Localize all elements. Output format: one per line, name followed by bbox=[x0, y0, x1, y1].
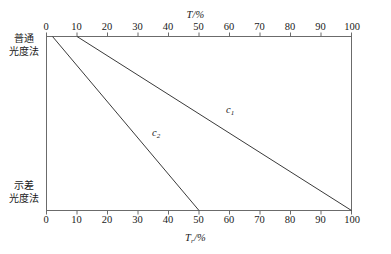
series-label-c1: c1 bbox=[226, 104, 234, 117]
bottom-tick-50: 50 bbox=[184, 214, 214, 225]
series-label-c2: c2 bbox=[152, 127, 160, 140]
plot-frame bbox=[47, 37, 352, 211]
transfer-line-c1 bbox=[77, 37, 352, 211]
bottom-tick-0: 0 bbox=[31, 214, 61, 225]
series-label-c1-subscript: 1 bbox=[231, 109, 235, 117]
bottom-axis-title-units: /% bbox=[194, 232, 206, 243]
bottom-tick-60: 60 bbox=[214, 214, 244, 225]
bottom-tick-40: 40 bbox=[153, 214, 183, 225]
bottom-tick-80: 80 bbox=[275, 214, 305, 225]
bottom-axis-title: Tr/% bbox=[0, 232, 391, 245]
bottom-tick-30: 30 bbox=[123, 214, 153, 225]
top-axis-ticks bbox=[47, 33, 352, 37]
bottom-tick-10: 10 bbox=[62, 214, 92, 225]
bottom-tick-20: 20 bbox=[92, 214, 122, 225]
bottom-tick-90: 90 bbox=[306, 214, 336, 225]
photometry-nomogram-figure: T/% 0 10 20 30 40 50 60 70 80 90 100 普通 … bbox=[0, 0, 391, 254]
series-label-c2-subscript: 2 bbox=[157, 132, 161, 140]
bottom-axis-tick-labels: 0 10 20 30 40 50 60 70 80 90 100 bbox=[0, 214, 391, 228]
bottom-tick-100: 100 bbox=[337, 214, 367, 225]
bottom-tick-70: 70 bbox=[245, 214, 275, 225]
transfer-line-c2 bbox=[53, 37, 200, 211]
